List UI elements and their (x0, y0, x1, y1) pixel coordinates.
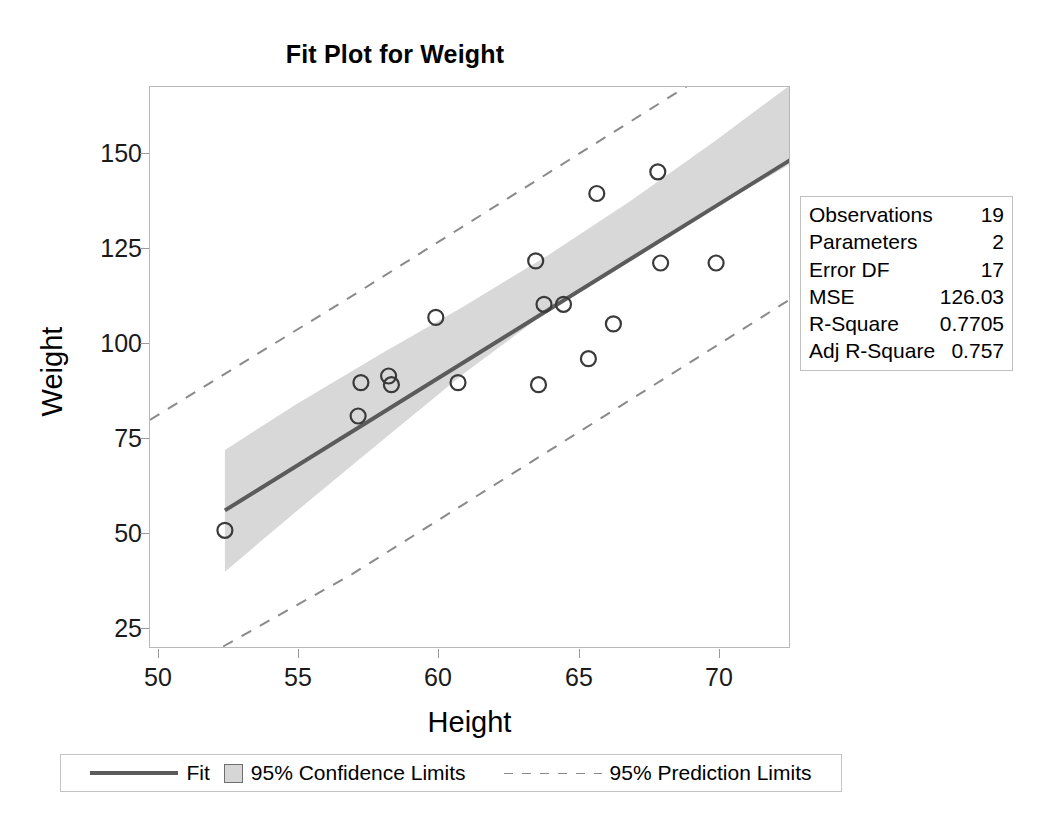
fit-plot-figure: Fit Plot for Weight Weight 150 125 100 7… (0, 0, 1038, 816)
statistics-box: Observations19Parameters2Error DF17MSE12… (800, 196, 1013, 371)
legend-item-prediction: 95% Prediction Limits (504, 761, 812, 785)
y-tickmark-25 (140, 628, 149, 629)
data-point (589, 186, 604, 201)
stats-row: MSE126.03 (809, 283, 1004, 310)
x-tick-65: 65 (539, 663, 619, 692)
stats-row: R-Square0.7705 (809, 310, 1004, 337)
stats-value: 0.757 (951, 337, 1004, 364)
y-tickmark-100 (140, 343, 149, 344)
x-axis-label: Height (149, 706, 790, 739)
legend-label-confidence: 95% Confidence Limits (251, 761, 466, 785)
y-tick-50: 50 (72, 519, 142, 548)
stats-label: Parameters (809, 228, 918, 255)
data-point (650, 164, 665, 179)
confidence-band-swatch (224, 764, 243, 783)
stats-value: 19 (981, 201, 1004, 228)
x-tick-50: 50 (118, 663, 198, 692)
plot-area (149, 86, 790, 648)
prediction-limit-upper (150, 87, 790, 420)
stats-label: R-Square (809, 310, 899, 337)
x-axis-tick-labels: 50 55 60 65 70 (0, 663, 1038, 703)
plot-legend: Fit 95% Confidence Limits 95% Prediction… (60, 754, 842, 792)
x-tickmark-50 (158, 649, 159, 658)
data-point (606, 316, 621, 331)
stats-value: 126.03 (940, 283, 1004, 310)
x-tickmark-70 (719, 649, 720, 658)
x-tickmark-55 (298, 649, 299, 658)
y-tickmark-125 (140, 248, 149, 249)
legend-item-fit: Fit (90, 761, 209, 785)
data-point (531, 377, 546, 392)
data-point (653, 256, 668, 271)
confidence-band (225, 87, 790, 572)
fit-line-swatch (90, 771, 178, 775)
stats-label: MSE (809, 283, 855, 310)
legend-label-fit: Fit (186, 761, 209, 785)
stats-row: Parameters2 (809, 228, 1004, 255)
stats-value: 2 (992, 228, 1004, 255)
x-tickmark-60 (438, 649, 439, 658)
x-tickmark-65 (579, 649, 580, 658)
stats-label: Error DF (809, 256, 890, 283)
y-tickmark-50 (140, 533, 149, 534)
y-tick-125: 125 (72, 234, 142, 263)
y-tick-150: 150 (72, 139, 142, 168)
stats-row: Adj R-Square0.757 (809, 337, 1004, 364)
y-tick-100: 100 (72, 329, 142, 358)
stats-label: Observations (809, 201, 933, 228)
data-point (581, 351, 596, 366)
y-tick-25: 25 (72, 614, 142, 643)
stats-row: Observations19 (809, 201, 1004, 228)
stats-value: 0.7705 (940, 310, 1004, 337)
legend-label-prediction: 95% Prediction Limits (610, 761, 812, 785)
x-tick-55: 55 (258, 663, 338, 692)
stats-value: 17 (981, 256, 1004, 283)
x-tick-70: 70 (679, 663, 759, 692)
stats-label: Adj R-Square (809, 337, 935, 364)
y-tickmark-150 (140, 153, 149, 154)
legend-item-confidence: 95% Confidence Limits (224, 761, 466, 785)
stats-row: Error DF17 (809, 256, 1004, 283)
data-point (709, 256, 724, 271)
plot-canvas (150, 87, 790, 648)
prediction-line-swatch (504, 772, 602, 774)
x-tick-60: 60 (398, 663, 478, 692)
y-tickmark-75 (140, 438, 149, 439)
y-tick-75: 75 (72, 424, 142, 453)
